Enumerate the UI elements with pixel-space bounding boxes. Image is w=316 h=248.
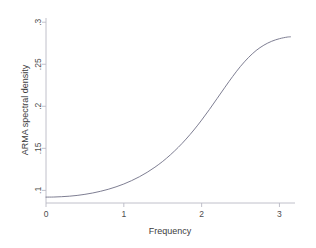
y-tick-label: .1 xyxy=(33,187,43,194)
x-tick-label: 3 xyxy=(277,209,282,219)
y-axis-title: ARMA spectral density xyxy=(20,64,30,155)
x-tick-label: 0 xyxy=(44,209,49,219)
x-axis-title: Frequency xyxy=(149,226,192,236)
y-tick-label: .2 xyxy=(33,102,43,109)
y-tick-label: .3 xyxy=(33,18,43,25)
x-tick-label: 1 xyxy=(121,209,126,219)
plot-area-background xyxy=(46,18,295,203)
x-tick-label: 2 xyxy=(199,209,204,219)
y-tick-label: .25 xyxy=(33,58,43,70)
chart-figure: 0123 .1.15.2.25.3 Frequency ARMA spectra… xyxy=(0,0,316,248)
arma-spectral-density-plot: 0123 .1.15.2.25.3 Frequency ARMA spectra… xyxy=(0,0,316,248)
y-tick-label: .15 xyxy=(33,142,43,154)
